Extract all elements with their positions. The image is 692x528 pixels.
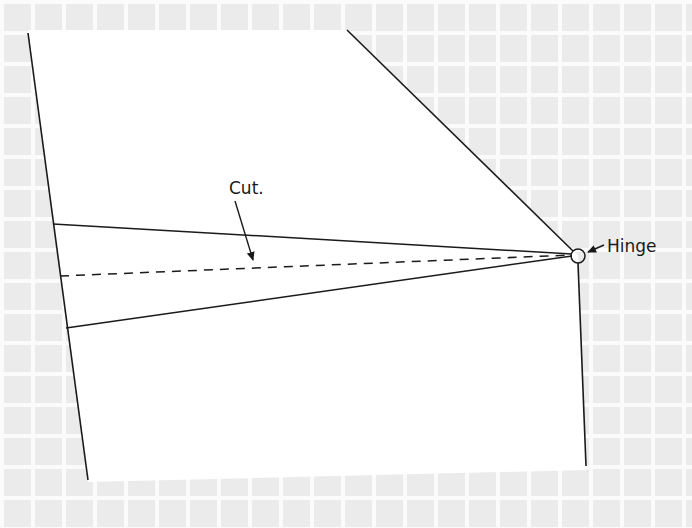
cut-label: Cut. (229, 178, 264, 198)
paper-sheet (28, 30, 586, 482)
hinge-arrow-icon (588, 245, 604, 252)
hinge-label: Hinge (607, 236, 657, 256)
hinge-cut-diagram: Cut. Hinge (0, 0, 692, 528)
